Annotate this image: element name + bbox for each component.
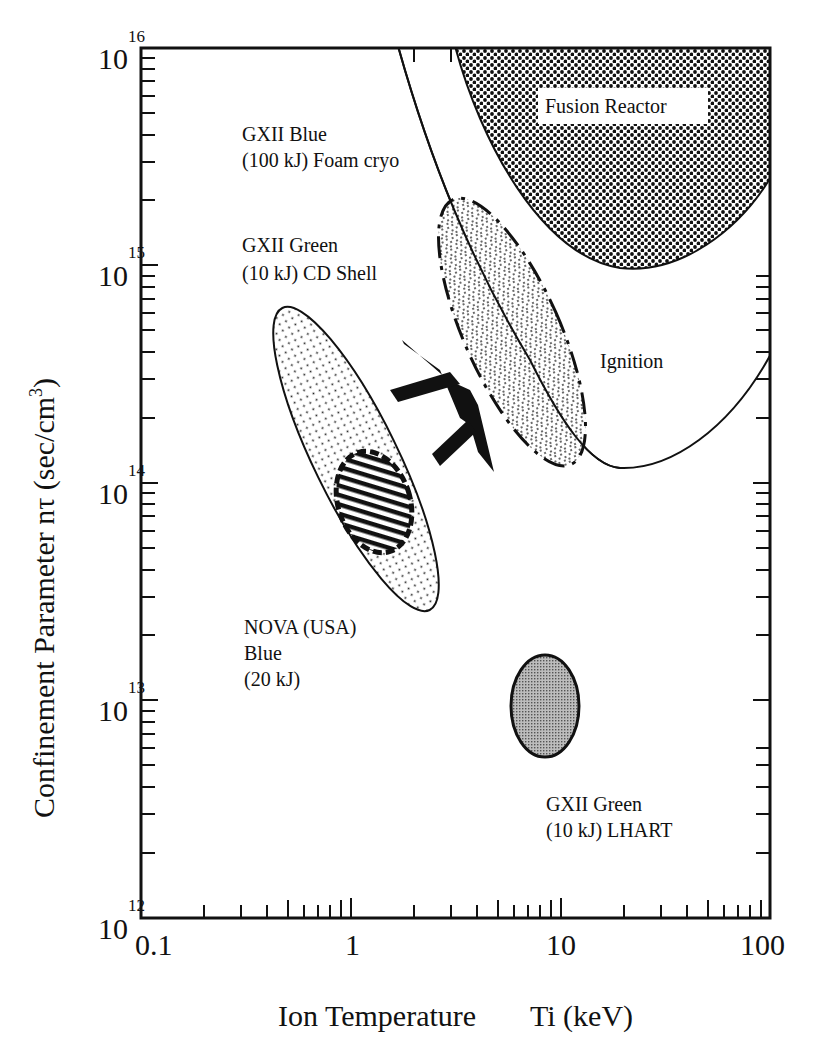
x-tick-labels: 0.1 1 10 100 — [135, 928, 785, 961]
y-tick-12-base: 10 — [98, 912, 128, 945]
y-tick-13-base: 10 — [98, 694, 128, 727]
gxii-green-cd-label-2: (10 kJ) CD Shell — [242, 262, 377, 285]
y-tick-15-base: 10 — [98, 259, 128, 292]
y-axis-label-main: Confinement Parameter nτ (sec/cm — [27, 397, 61, 818]
fusion-reactor-label: Fusion Reactor — [545, 95, 667, 117]
y-axis-label: Confinement Parameter nτ (sec/cm3) — [26, 378, 61, 818]
nova-label-1: NOVA (USA) — [244, 616, 356, 639]
x-tick-10: 10 — [546, 928, 576, 961]
y-tick-12-exp: 12 — [128, 896, 145, 915]
gxii-blue-label-1: GXII Blue — [242, 123, 327, 145]
y-tick-labels: 10 16 10 15 10 14 10 13 10 12 — [98, 27, 146, 945]
nova-label-3: (20 kJ) — [244, 668, 300, 691]
y-tick-16-base: 10 — [98, 42, 128, 75]
y-tick-15-exp: 15 — [128, 243, 145, 262]
x-tick-100: 100 — [740, 928, 785, 961]
y-axis-label-sup: 3 — [26, 388, 46, 397]
y-tick-14-base: 10 — [98, 477, 128, 510]
lhart-label-1: GXII Green — [546, 793, 642, 815]
gxii-green-cd-label-1: GXII Green — [242, 234, 338, 256]
confinement-chart: Fusion Reactor — [0, 0, 820, 1045]
lhart-ellipse — [511, 655, 579, 757]
gxii-blue-label-2: (100 kJ) Foam cryo — [242, 149, 399, 172]
x-axis-label-a: Ion Temperature — [278, 999, 476, 1032]
x-tick-1: 1 — [345, 928, 360, 961]
svg-text:Confinement Parameter nτ (sec/: Confinement Parameter nτ (sec/cm3) — [26, 378, 61, 818]
x-tick-0.1: 0.1 — [135, 928, 173, 961]
lhart-label-2: (10 kJ) LHART — [546, 819, 673, 842]
y-tick-14-exp: 14 — [128, 461, 146, 480]
y-tick-16-exp: 16 — [128, 27, 145, 46]
y-axis-label-end: ) — [27, 378, 61, 388]
y-tick-13-exp: 13 — [128, 678, 145, 697]
ignition-label: Ignition — [600, 350, 663, 373]
nova-label-2: Blue — [244, 642, 282, 664]
x-axis-label-b: Ti (keV) — [530, 999, 633, 1033]
